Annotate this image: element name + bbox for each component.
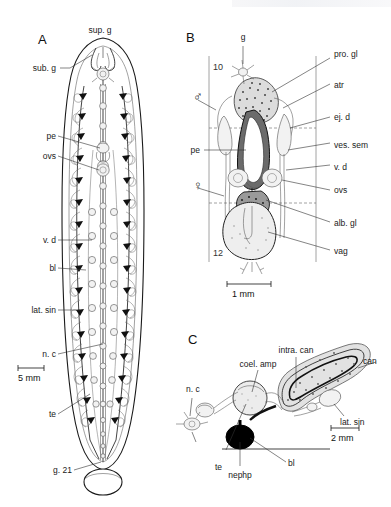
panel-a: A	[18, 25, 144, 495]
label-sup-g: sup. g	[88, 25, 111, 35]
label-g-21: g. 21	[53, 465, 72, 475]
panel-b-scale-label: 1 mm	[232, 289, 255, 299]
panel-c-scale-label: 2 mm	[331, 433, 354, 443]
vagina	[223, 202, 276, 259]
label-alb-gl: alb. gl	[334, 218, 357, 228]
female-symbol: ♀	[193, 178, 203, 193]
panel-b-letter: B	[186, 30, 195, 45]
label-ves-sem: ves. sem	[334, 140, 368, 150]
label-b-v-d: v. d	[334, 162, 347, 172]
panel-a-scale-label: 5 mm	[18, 373, 41, 383]
label-v-d: v. d	[43, 235, 56, 245]
panel-b-segment-12: 12	[213, 248, 223, 258]
label-can: can	[363, 356, 377, 366]
label-bl: bl	[49, 263, 56, 273]
label-ej-d: ej. d	[334, 112, 350, 122]
label-b-g: g	[241, 32, 246, 42]
label-c-bl: bl	[288, 458, 295, 468]
label-n-c: n. c	[42, 349, 56, 359]
label-b-ovs: ovs	[334, 185, 347, 195]
panel-a-scale-bar: 5 mm	[18, 365, 44, 383]
figure-plate: A	[0, 0, 391, 507]
label-c-te: te	[215, 462, 222, 472]
label-vag: vag	[334, 246, 348, 256]
label-nephp: nephp	[228, 470, 252, 480]
label-intra-can: intra. can	[279, 345, 314, 355]
panel-a-letter: A	[38, 32, 47, 47]
panel-b: B 10 12 ♂ ♀	[186, 30, 368, 299]
label-pro-gl: pro. gl	[334, 49, 358, 59]
panel-c-letter: C	[188, 332, 197, 347]
testis-c	[196, 392, 238, 417]
nerve-cord-leader-c	[190, 398, 192, 416]
label-atr: atr	[334, 80, 344, 90]
label-pe: pe	[47, 131, 57, 141]
label-c-n-c: n. c	[186, 384, 200, 394]
label-lat-sin: lat. sin	[31, 305, 56, 315]
ejaculatory-duct-left	[218, 96, 232, 178]
label-b-pe: pe	[191, 145, 201, 155]
coelomic-ampulla	[233, 381, 267, 415]
label-coel-amp: coel. amp	[240, 359, 277, 369]
panel-c-scale-bar: 2 mm	[331, 425, 359, 443]
panel-b-segment-10: 10	[213, 62, 223, 72]
label-te: te	[49, 409, 56, 419]
gonopore-nerves	[240, 262, 264, 274]
label-ovs: ovs	[43, 151, 56, 161]
label-sub-g: sub. g	[33, 63, 56, 73]
label-c-lat-sin: lat. sin	[340, 417, 365, 427]
panel-c: C	[176, 332, 377, 480]
panel-b-scale-bar: 1 mm	[227, 281, 271, 299]
posterior-sucker	[84, 469, 122, 495]
